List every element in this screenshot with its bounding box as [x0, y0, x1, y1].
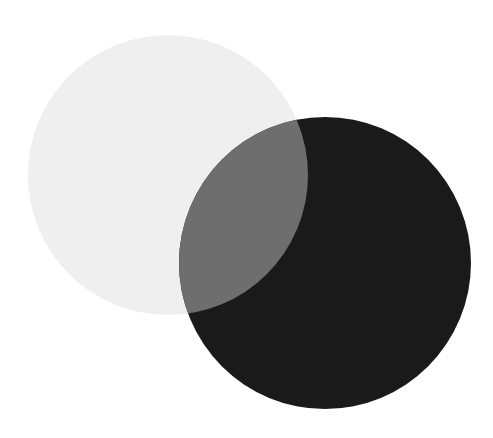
venn-diagram	[0, 0, 493, 438]
diagram-canvas	[0, 0, 493, 438]
